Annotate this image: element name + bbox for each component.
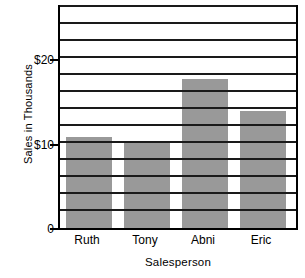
gridline-2 — [60, 209, 296, 211]
gridline-24 — [60, 22, 296, 24]
y-axis-tick-group: $20 $10 0 — [0, 0, 54, 278]
gridline-18 — [60, 73, 296, 75]
bar-ruth — [66, 137, 112, 228]
x-tick-label-abni: Abni — [176, 233, 230, 247]
x-tick-label-eric: Eric — [234, 233, 288, 247]
gridline-14 — [60, 107, 296, 109]
x-axis-title: Salesperson — [58, 256, 298, 268]
gridline-26 — [60, 5, 296, 7]
bar-abni — [182, 79, 228, 228]
y-tick-mark-20 — [50, 59, 58, 61]
gridline-20 — [60, 56, 296, 58]
gridline-10 — [60, 141, 296, 143]
y-tick-mark-10 — [50, 144, 58, 146]
plot-area — [58, 5, 298, 230]
x-tick-label-tony: Tony — [118, 233, 172, 247]
gridline-8 — [60, 158, 296, 160]
bar-chart-figure: Sales in Thousands $20 $10 0 — [0, 0, 305, 278]
gridline-4 — [60, 192, 296, 194]
x-axis-tick-group: Ruth Tony Abni Eric — [58, 233, 298, 253]
x-tick-label-ruth: Ruth — [60, 233, 114, 247]
gridline-22 — [60, 39, 296, 41]
gridline-6 — [60, 175, 296, 177]
gridline-12 — [60, 124, 296, 126]
bar-tony — [124, 143, 170, 228]
plot-inner — [60, 7, 296, 228]
y-tick-mark-0 — [50, 228, 58, 230]
gridline-16 — [60, 90, 296, 92]
